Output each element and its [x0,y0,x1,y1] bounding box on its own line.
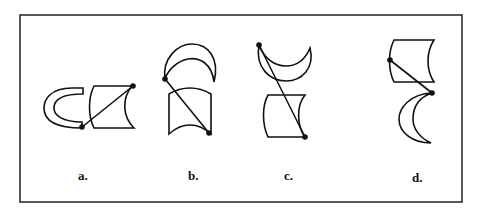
option-d-label: d. [412,170,422,185]
option-b-label: b. [188,168,198,183]
concave-quad-shape [264,95,306,137]
c-arc-band-shape [44,88,83,128]
crescent-shape [258,45,311,81]
concave-quad-shape [390,40,435,82]
dot [387,57,393,63]
dot [79,124,85,130]
option-b[interactable] [162,44,215,136]
concave-quad-shape [90,86,135,128]
dot [206,130,212,136]
option-c[interactable] [256,42,311,140]
option-d[interactable] [387,40,435,143]
dot [130,83,136,89]
connector-line [390,60,432,93]
dot [162,76,168,82]
crescent-shape [165,44,216,82]
figure-options-diagram: a. b. c. d. [0,0,486,214]
dot [429,90,435,96]
connector-line [259,45,305,137]
option-a[interactable] [44,83,136,130]
dot [256,42,262,48]
option-c-label: c. [284,168,293,183]
option-a-label: a. [78,168,88,183]
dot [302,134,308,140]
crescent-shape [399,93,432,143]
